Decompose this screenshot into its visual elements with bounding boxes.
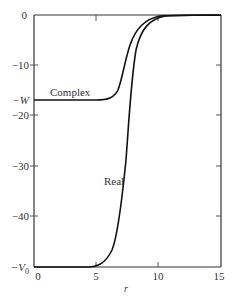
complex-label: Complex bbox=[50, 86, 91, 98]
x-tick-labels: 0 5 10 15 r bbox=[35, 270, 225, 294]
y-tick-v0-subscript: 0 bbox=[25, 267, 29, 276]
y-tick-10: −10 bbox=[12, 59, 30, 71]
y-tick-0: 0 bbox=[22, 9, 28, 21]
curves bbox=[34, 15, 221, 267]
y-tick-labels: 0 −10 −W −20 −30 −40 −V 0 bbox=[11, 9, 30, 276]
x-tick-5: 5 bbox=[93, 270, 99, 282]
y-tick-w: −W bbox=[12, 94, 29, 106]
x-tick-10: 10 bbox=[153, 270, 165, 282]
y-tick-20: −20 bbox=[12, 109, 30, 121]
x-axis-label: r bbox=[124, 283, 128, 294]
x-tick-0: 0 bbox=[35, 270, 41, 282]
x-tick-15: 15 bbox=[214, 270, 226, 282]
y-tick-30: −30 bbox=[12, 160, 30, 172]
axis-ticks bbox=[30, 15, 221, 267]
y-tick-40: −40 bbox=[12, 210, 30, 222]
y-tick-v0: −V bbox=[11, 261, 26, 273]
potential-chart: 0 −10 −W −20 −30 −40 −V 0 0 5 10 15 r Co… bbox=[0, 0, 232, 297]
real-label: Real bbox=[104, 175, 124, 187]
